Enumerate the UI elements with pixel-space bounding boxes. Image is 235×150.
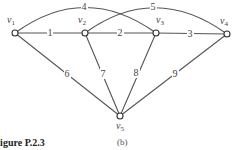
node-label-v5: v5	[116, 120, 124, 133]
edge-weight-5: 5	[151, 1, 156, 12]
node-label-v2: v2	[78, 14, 86, 27]
node-label-v3: v3	[156, 14, 164, 27]
edge-weight-3: 3	[188, 28, 193, 39]
figure-caption: Figure P.2.3	[0, 137, 45, 148]
edge-weight-8: 8	[134, 67, 139, 78]
edge-weight-6: 6	[65, 68, 70, 79]
node-v3	[153, 30, 159, 36]
node-v2	[82, 30, 88, 36]
graph-diagram: 1 2 3 4 5 6 7 8 9 v1 v2 v3 v4 v5 Figure …	[0, 0, 235, 150]
edge-weight-7: 7	[101, 68, 106, 79]
node-v4	[224, 31, 230, 37]
node-label-v4: v4	[220, 15, 228, 28]
node-v1	[12, 30, 18, 36]
edge-weight-4: 4	[82, 1, 87, 12]
edge-weight-1: 1	[48, 27, 53, 38]
edge-weight-9: 9	[173, 68, 178, 79]
figure-sublabel: (b)	[117, 137, 128, 147]
node-v5	[117, 113, 123, 119]
node-label-v1: v1	[7, 14, 15, 27]
edge-weight-2: 2	[118, 27, 123, 38]
